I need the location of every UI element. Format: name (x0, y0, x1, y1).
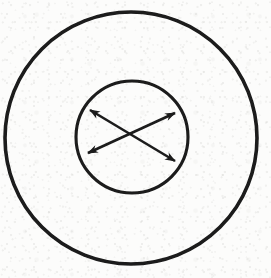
figure-canvas: Concentric circles with crossed double-h… (0, 0, 271, 278)
outer-circle (5, 12, 257, 264)
inner-circle (76, 81, 188, 193)
arrow-nw-se (88, 113, 175, 153)
concentric-circles-figure: Concentric circles with crossed double-h… (0, 0, 271, 278)
